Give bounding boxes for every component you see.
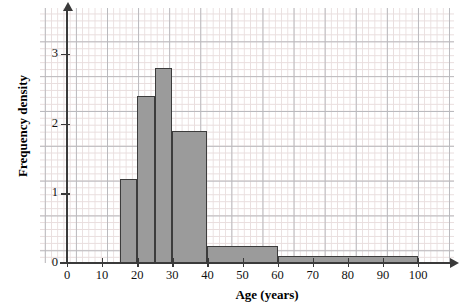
x-axis-arrow-icon (450, 258, 459, 268)
y-tick (61, 124, 70, 125)
x-tick-label: 50 (223, 268, 263, 283)
x-tick (278, 258, 279, 267)
histogram-chart: 0102030405060708090100 0123 Age (years) … (0, 0, 465, 306)
y-tick-label: 1 (34, 185, 58, 200)
x-tick-label: 70 (293, 268, 333, 283)
x-tick (348, 258, 349, 267)
x-tick (313, 258, 314, 267)
x-tick-label: 80 (328, 268, 368, 283)
bars-group (0, 0, 465, 306)
x-tick-label: 60 (258, 268, 298, 283)
x-tick (137, 258, 138, 267)
x-tick-label: 30 (152, 268, 192, 283)
x-tick-label: 10 (82, 268, 122, 283)
x-axis-title: Age (years) (107, 287, 427, 303)
y-axis-line (66, 6, 68, 264)
x-tick (418, 258, 419, 267)
x-tick (207, 258, 208, 267)
y-tick (61, 263, 70, 264)
y-tick-label: 3 (34, 46, 58, 61)
x-tick-label: 100 (398, 268, 438, 283)
x-tick (383, 258, 384, 267)
y-tick (61, 54, 70, 55)
y-tick-label: 0 (34, 255, 58, 270)
x-tick-label: 40 (187, 268, 227, 283)
x-tick (102, 258, 103, 267)
x-tick (243, 258, 244, 267)
x-axis-line (60, 262, 452, 264)
y-tick-label: 2 (34, 116, 58, 131)
histogram-bar (172, 131, 207, 263)
y-axis-arrow-icon (63, 2, 73, 11)
y-axis-title: Frequency density (15, 26, 31, 226)
x-tick-label: 20 (117, 268, 157, 283)
x-tick-label: 90 (363, 268, 403, 283)
histogram-bar (137, 96, 155, 263)
histogram-bar (120, 179, 138, 263)
y-tick (61, 193, 70, 194)
x-tick-label: 0 (47, 268, 87, 283)
x-tick (172, 258, 173, 267)
histogram-bar (155, 68, 173, 263)
